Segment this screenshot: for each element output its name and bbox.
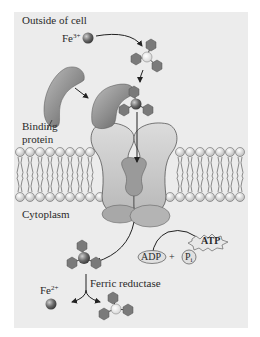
fe3-ion — [83, 33, 94, 44]
label-atp: ATP — [201, 235, 220, 247]
label-binding-protein: Bindingprotein — [22, 120, 57, 146]
fe2-charge: 2+ — [51, 284, 58, 292]
pi-subscript: i — [191, 256, 193, 264]
label-adp: ADP — [141, 251, 161, 263]
siderophore-released — [99, 292, 133, 320]
abc-transporter — [91, 123, 177, 227]
label-cytoplasm: Cytoplasm — [22, 208, 70, 220]
arrow-fe-binding — [96, 34, 142, 46]
label-fe2: Fe2+ — [40, 284, 58, 296]
arrow-release-siderophore — [86, 290, 100, 302]
binding-protein-line1: Binding — [22, 120, 57, 132]
binding-protein-line2: protein — [22, 133, 53, 145]
siderophore-iron-cytoplasm — [67, 240, 101, 269]
binding-protein-free — [44, 67, 84, 127]
fe3-symbol: Fe — [62, 32, 73, 44]
label-ferric-reductase: Ferric reductase — [90, 277, 161, 289]
arrow-binding-protein — [75, 88, 88, 98]
fe2-symbol: Fe — [40, 284, 51, 296]
label-pi: Pi — [185, 251, 193, 263]
label-fe3: Fe3+ — [62, 32, 80, 44]
arrow-release-fe2 — [72, 274, 86, 302]
fe3-charge: 3+ — [73, 32, 80, 40]
label-outside-of-cell: Outside of cell — [22, 14, 87, 26]
fe2-ion — [46, 299, 57, 310]
label-plus: + — [169, 251, 175, 263]
arrow-to-cytoplasm — [96, 222, 134, 262]
siderophore-empty — [131, 39, 162, 72]
arrow-to-binding-protein — [140, 70, 143, 82]
